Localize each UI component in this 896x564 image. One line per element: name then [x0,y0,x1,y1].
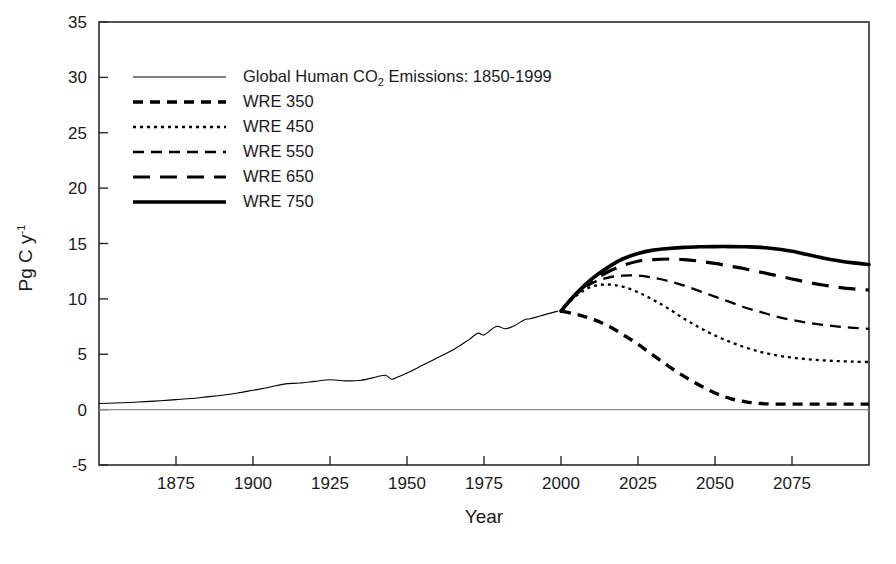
y-tick-label: -5 [72,456,87,475]
y-axis-title-base: Pg C y [15,234,36,292]
x-tick-label: 1975 [465,474,503,493]
y-tick-label: 20 [68,179,87,198]
emissions-scenarios-chart: 35302520151050-5 18751900192519501975200… [0,0,896,564]
y-tick-label: 10 [68,290,87,309]
chart-figure: 35302520151050-5 18751900192519501975200… [0,0,896,564]
legend-label: WRE 550 [243,142,314,160]
y-tick-label: 30 [68,68,87,87]
y-tick-label: 5 [78,345,87,364]
y-tick-label: 35 [68,13,87,32]
legend-label: WRE 750 [243,192,314,210]
y-axis-title: Pg C y-1 [15,225,36,292]
x-tick-label: 2075 [773,474,811,493]
legend-label-main: WRE 450 [243,117,314,135]
x-tick-label: 2050 [696,474,734,493]
y-tick-label: 15 [68,235,87,254]
svg-text:Pg C y-1: Pg C y-1 [15,225,36,292]
x-tick-label: 1925 [311,474,349,493]
x-tick-label: 2025 [619,474,657,493]
legend-label: WRE 650 [243,167,314,185]
y-tick-label: 25 [68,124,87,143]
x-axis-tick-labels: 187519001925195019752000202520502075 [157,474,811,493]
legend-label-tail: Emissions: 1850-1999 [384,67,552,85]
legend-label-main: WRE 650 [243,167,314,185]
x-tick-label: 2000 [542,474,580,493]
y-tick-label: 0 [78,401,87,420]
x-tick-label: 1875 [157,474,195,493]
legend-label: WRE 450 [243,117,314,135]
legend-label-main: WRE 550 [243,142,314,160]
x-axis-title: Year [465,506,504,527]
y-axis-title-exponent: -1 [15,225,27,235]
x-tick-label: 1900 [234,474,272,493]
legend-label-main: WRE 750 [243,192,314,210]
legend-label-main: Global Human CO [243,67,378,85]
legend-label-main: WRE 350 [243,92,314,110]
legend-label: WRE 350 [243,92,314,110]
x-tick-label: 1950 [388,474,426,493]
legend-label: Global Human CO2 Emissions: 1850-1999 [243,67,552,88]
